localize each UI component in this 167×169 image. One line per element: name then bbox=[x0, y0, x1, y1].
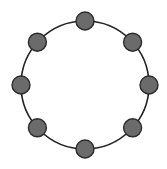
node-6 bbox=[28, 119, 46, 137]
node-group bbox=[12, 12, 158, 158]
node-3 bbox=[140, 76, 158, 94]
node-8 bbox=[28, 33, 46, 51]
ring-network-diagram bbox=[0, 0, 167, 169]
node-5 bbox=[76, 140, 94, 158]
node-7 bbox=[12, 76, 30, 94]
node-1 bbox=[76, 12, 94, 30]
node-2 bbox=[124, 33, 142, 51]
node-4 bbox=[124, 119, 142, 137]
